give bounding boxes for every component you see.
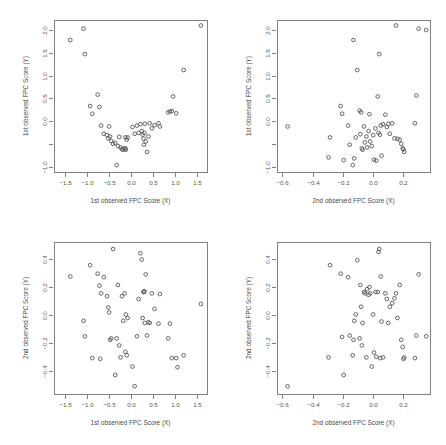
- data-points: [68, 247, 202, 388]
- x-axis-title: 1st observed FPC Score (X): [91, 197, 171, 205]
- data-point: [68, 275, 72, 279]
- data-point: [383, 113, 387, 117]
- data-point: [339, 272, 343, 276]
- data-point: [355, 68, 359, 72]
- data-point: [158, 125, 162, 129]
- data-point: [145, 150, 149, 154]
- data-point: [143, 122, 147, 126]
- y-tick-label: 0.0: [41, 117, 48, 126]
- data-point: [368, 140, 372, 144]
- data-point: [171, 95, 175, 99]
- data-point: [424, 334, 428, 338]
- y-tick-label: 2.0: [41, 26, 48, 35]
- data-point: [417, 27, 421, 31]
- data-point: [96, 93, 100, 97]
- data-point: [372, 351, 376, 355]
- data-points: [286, 24, 428, 167]
- data-point: [135, 334, 139, 338]
- data-point: [352, 319, 356, 323]
- data-point: [82, 27, 86, 31]
- data-point: [150, 292, 154, 296]
- data-point: [388, 132, 392, 136]
- data-point: [328, 136, 332, 140]
- data-point: [88, 263, 92, 267]
- y-axis-title: 1st observed FPC Score (Y): [245, 56, 253, 136]
- x-tick-label: −1.5: [59, 401, 72, 408]
- y-axis-title: 1st observed FPC Score (Y): [22, 56, 30, 136]
- x-tick-label: 0.2: [399, 179, 408, 186]
- y-axis-title: 2nd observed FPC Score (Y): [22, 277, 30, 359]
- data-point: [83, 334, 87, 338]
- data-point: [398, 138, 402, 142]
- data-point: [385, 297, 389, 301]
- data-point: [359, 305, 363, 309]
- data-point: [117, 344, 121, 348]
- data-point: [374, 126, 378, 130]
- data-point: [182, 68, 186, 72]
- x-tick-label: −0.6: [276, 401, 289, 408]
- y-tick-label: 1.5: [264, 49, 271, 58]
- data-point: [106, 306, 110, 310]
- data-point: [365, 135, 369, 139]
- data-point: [379, 275, 383, 279]
- data-point: [98, 357, 102, 361]
- x-tick-label: 1.5: [193, 401, 202, 408]
- data-point: [137, 297, 141, 301]
- y-axis: −1.00.00.51.01.52.0: [264, 26, 276, 174]
- x-tick-label: 0.0: [127, 401, 136, 408]
- y-tick-label: −0.4: [41, 365, 48, 378]
- plot-top-right: −0.6−0.4−0.20.00.2−1.00.00.51.01.52.02nd…: [223, 0, 446, 222]
- data-point: [121, 319, 125, 323]
- data-point: [88, 104, 92, 108]
- data-point: [148, 121, 152, 125]
- data-point: [170, 356, 174, 360]
- data-point: [340, 112, 344, 116]
- data-point: [398, 283, 402, 287]
- data-point: [386, 122, 390, 126]
- y-tick-label: −0.4: [264, 365, 271, 378]
- x-tick-label: −0.4: [307, 401, 320, 408]
- data-point: [123, 292, 127, 296]
- data-point: [176, 365, 180, 369]
- data-point: [358, 337, 362, 341]
- panel-bottom-right: −0.6−0.4−0.20.00.2−0.4−0.20.00.20.42nd o…: [223, 222, 446, 444]
- y-tick-label: 1.5: [41, 49, 48, 58]
- data-point: [390, 301, 394, 305]
- data-point: [394, 24, 398, 28]
- data-point: [153, 307, 157, 311]
- data-point: [365, 287, 369, 291]
- data-point: [340, 335, 344, 339]
- data-point: [144, 273, 148, 277]
- data-point: [368, 112, 372, 116]
- plot-frame: [55, 243, 208, 395]
- data-points: [68, 24, 202, 167]
- data-point: [119, 356, 123, 360]
- data-point: [348, 334, 352, 338]
- x-tick-label: 0.0: [369, 401, 378, 408]
- data-point: [380, 320, 384, 324]
- data-point: [82, 319, 86, 323]
- figure-scatter-matrix: −1.5−1.0−0.50.00.51.01.5−1.00.00.51.01.5…: [0, 0, 446, 445]
- data-point: [133, 132, 137, 136]
- data-point: [351, 163, 355, 167]
- data-point: [174, 111, 178, 115]
- data-point: [99, 292, 103, 296]
- data-point: [139, 251, 143, 255]
- y-tick-label: 0.5: [264, 94, 271, 103]
- data-point: [388, 305, 392, 309]
- data-point: [139, 122, 143, 126]
- data-point: [116, 283, 120, 287]
- data-point: [115, 163, 119, 167]
- x-axis-title: 1st observed FPC Score (X): [91, 419, 171, 427]
- data-point: [83, 52, 87, 56]
- data-point: [166, 337, 170, 341]
- data-point: [360, 344, 364, 348]
- panel-bottom-left: −1.5−1.0−0.50.00.51.01.5−0.4−0.20.00.20.…: [0, 222, 223, 444]
- data-point: [199, 302, 203, 306]
- x-tick-label: −0.2: [337, 401, 350, 408]
- x-tick-label: −1.0: [81, 179, 94, 186]
- data-point: [68, 38, 72, 42]
- x-axis: −0.6−0.4−0.20.00.2: [276, 173, 408, 186]
- y-axis: −0.4−0.20.00.20.4: [41, 255, 53, 378]
- data-point: [413, 121, 417, 125]
